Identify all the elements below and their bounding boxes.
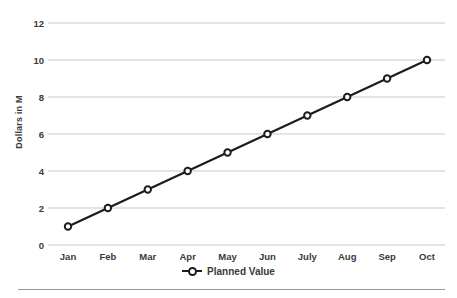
x-tick-label-feb: Feb xyxy=(99,251,116,262)
data-point-apr-4 xyxy=(184,168,190,174)
y-tick-label-10: 10 xyxy=(33,55,44,66)
line-chart: 024681012JanFebMarAprMayJunJulyAugSepOct xyxy=(0,0,457,298)
data-point-oct-10 xyxy=(424,57,430,63)
y-tick-label-4: 4 xyxy=(39,166,45,177)
planned-value-series-marker-icon xyxy=(182,267,202,276)
x-tick-label-may: May xyxy=(218,251,237,262)
legend-circle-icon xyxy=(188,267,197,276)
legend-label: Planned Value xyxy=(207,266,275,277)
y-tick-label-12: 12 xyxy=(33,18,44,29)
y-axis-title: Dollars in M xyxy=(14,77,24,167)
y-tick-label-6: 6 xyxy=(39,129,44,140)
data-point-may-5 xyxy=(224,149,230,155)
y-tick-label-2: 2 xyxy=(39,203,44,214)
data-point-july-7 xyxy=(304,112,310,118)
series-line-planned-value xyxy=(68,60,427,227)
x-tick-label-oct: Oct xyxy=(419,251,436,262)
x-tick-label-sep: Sep xyxy=(378,251,396,262)
x-tick-label-mar: Mar xyxy=(139,251,156,262)
x-tick-label-aug: Aug xyxy=(338,251,357,262)
x-tick-label-jan: Jan xyxy=(60,251,77,262)
data-point-feb-2 xyxy=(105,205,111,211)
legend: Planned Value xyxy=(0,263,457,279)
x-tick-label-jun: Jun xyxy=(259,251,276,262)
x-tick-label-july: July xyxy=(298,251,318,262)
data-point-jan-1 xyxy=(65,223,71,229)
chart-container: 024681012JanFebMarAprMayJunJulyAugSepOct… xyxy=(0,0,457,298)
data-point-mar-3 xyxy=(145,186,151,192)
bottom-divider-rule xyxy=(18,289,445,290)
x-tick-label-apr: Apr xyxy=(179,251,196,262)
data-point-aug-8 xyxy=(344,94,350,100)
data-point-jun-6 xyxy=(264,131,270,137)
data-point-sep-9 xyxy=(384,75,390,81)
y-tick-label-8: 8 xyxy=(39,92,44,103)
y-tick-label-0: 0 xyxy=(39,240,44,251)
